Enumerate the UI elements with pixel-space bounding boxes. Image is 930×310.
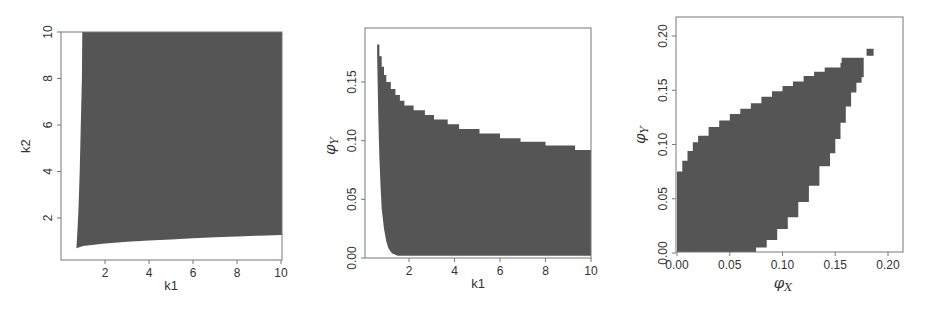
y-tick-label: 0.00	[656, 241, 670, 265]
x-tick-label: 6	[190, 266, 197, 280]
y-tick-label: 2	[41, 214, 55, 221]
plot-k1-vs-phiY: 2468100.000.050.100.15k1φY	[321, 28, 598, 291]
x-axis-label: k1	[164, 278, 178, 293]
y-tick-label: 0.05	[345, 187, 359, 211]
y-tick-label: 6	[41, 121, 55, 128]
x-axis-label: k1	[471, 276, 485, 291]
x-axis-label: φX	[774, 274, 794, 294]
x-tick-label: 2	[406, 264, 413, 278]
chart-figure: 246810246810k1k2 2468100.000.050.100.15k…	[0, 0, 930, 310]
y-tick-label: 0.10	[656, 132, 670, 156]
isolated-cell	[867, 49, 874, 56]
y-tick-label: 0.05	[656, 187, 670, 211]
plot-k1-vs-k2: 246810246810k1k2	[18, 20, 292, 293]
y-tick-label: 0.00	[345, 246, 359, 270]
y-tick-label: 0.20	[656, 24, 670, 48]
x-tick-label: 10	[274, 266, 288, 280]
x-tick-label: 10	[584, 264, 598, 278]
x-tick-label: 0.20	[876, 258, 900, 272]
x-tick-label: 6	[497, 264, 504, 278]
x-tick-label: 4	[146, 266, 153, 280]
x-tick-label: 0.05	[718, 258, 742, 272]
y-tick-label: 0.15	[345, 70, 359, 94]
x-tick-label: 2	[102, 266, 109, 280]
y-tick-label: 0.15	[656, 78, 670, 102]
y-axis-label: φY	[321, 135, 341, 155]
y-tick-label: 0.10	[345, 129, 359, 153]
y-axis-label: k2	[18, 139, 33, 153]
x-tick-label: 8	[542, 264, 549, 278]
shaded-region	[76, 20, 292, 248]
x-tick-label: 0.10	[771, 258, 795, 272]
x-tick-label: 8	[234, 266, 241, 280]
y-axis-label: φY	[631, 124, 651, 144]
x-tick-label: 4	[451, 264, 458, 278]
shaded-region	[377, 45, 595, 257]
shaded-region	[677, 49, 874, 253]
y-tick-label: 4	[41, 168, 55, 175]
y-tick-label: 8	[41, 75, 55, 82]
x-tick-label: 0.15	[824, 258, 848, 272]
y-tick-label: 10	[41, 25, 55, 39]
plot-phiX-vs-phiY: 0.000.050.100.150.200.000.050.100.150.20…	[631, 17, 903, 294]
